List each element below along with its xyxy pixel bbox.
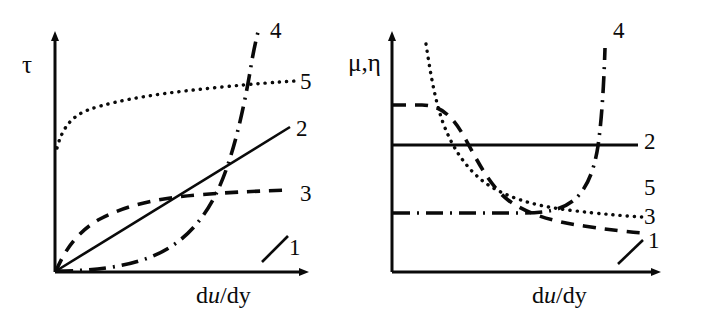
- x-axis-label-right: du/dy: [532, 283, 587, 307]
- leader-line-1-right: [618, 240, 643, 264]
- curve-label-3-right: 3: [644, 205, 656, 228]
- panel-shear-stress: τ du/dy 1 2 3 4 5: [0, 0, 360, 330]
- curve-4-right: [393, 48, 605, 213]
- curve-label-5-right: 5: [644, 176, 656, 199]
- leader-line-1-left: [262, 236, 288, 262]
- plot-area-left: [0, 0, 360, 330]
- x-label-italic-right: u: [544, 282, 556, 308]
- x-label-suffix-right: /dy: [556, 282, 587, 308]
- curve-label-1-left: 1: [289, 236, 301, 259]
- curve-label-5-left: 5: [300, 70, 312, 93]
- curve-label-1-right: 1: [648, 229, 660, 252]
- curve-4-left: [56, 32, 258, 271]
- curve-label-2-right: 2: [644, 130, 656, 153]
- rheology-figure: τ du/dy 1 2 3 4 5: [0, 0, 717, 330]
- panel-viscosity: μ,η du/dy 1 2 3 4 5: [360, 0, 717, 330]
- x-label-suffix-left: /dy: [220, 282, 251, 308]
- curve-5-left: [57, 81, 295, 148]
- curve-label-2-left: 2: [296, 117, 308, 140]
- curve-label-4-left: 4: [270, 19, 282, 42]
- curve-3-left: [56, 190, 288, 271]
- curve-2-left: [56, 127, 290, 271]
- plot-area-right: [360, 0, 717, 330]
- x-label-prefix-left: d: [196, 282, 208, 308]
- curve-label-4-right: 4: [613, 19, 625, 42]
- y-axis-label-right: μ,η: [348, 50, 381, 75]
- x-label-italic-left: u: [208, 282, 220, 308]
- x-axis-label-left: du/dy: [196, 283, 251, 307]
- curve-label-3-left: 3: [300, 182, 312, 205]
- y-axis-label-left: τ: [22, 52, 32, 77]
- x-label-prefix-right: d: [532, 282, 544, 308]
